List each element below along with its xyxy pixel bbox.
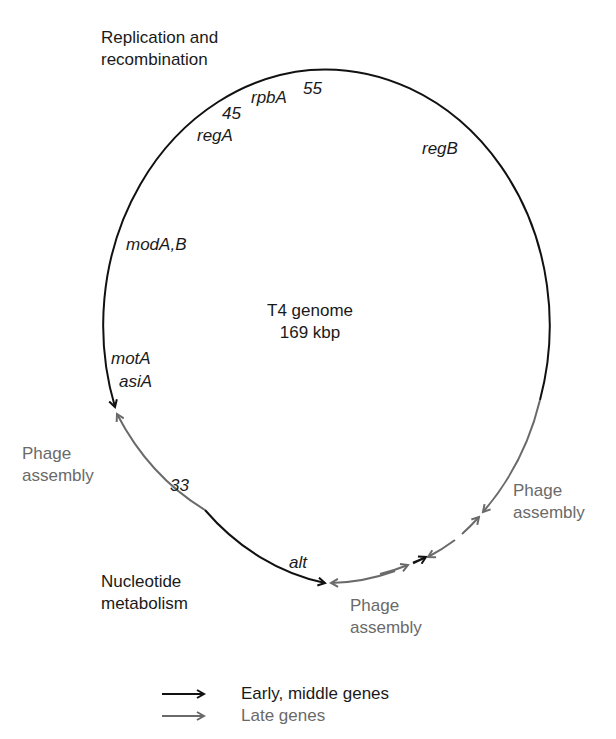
legend-late-label: Late genes xyxy=(241,705,325,727)
region-phage-left-line2: assembly xyxy=(22,465,94,487)
region-phage-left-line1: Phage xyxy=(22,443,94,465)
genome-title: T4 genome 169 kbp xyxy=(265,300,355,344)
genome-map xyxy=(0,0,616,739)
early-arrow-small xyxy=(413,557,426,563)
late-arc-bottom-fwd xyxy=(380,565,408,574)
region-phage-right: Phage assembly xyxy=(513,480,585,524)
region-nucleotide-line2: metabolism xyxy=(101,593,188,615)
late-arc-mid-back xyxy=(428,540,455,557)
region-nucleotide-line1: Nucleotide xyxy=(101,571,188,593)
gene-modAB: modA,B xyxy=(126,234,186,256)
region-phage-right-line2: assembly xyxy=(513,502,585,524)
region-replication-line1: Replication and xyxy=(101,27,218,49)
gene-motA: motA xyxy=(111,348,151,370)
late-arc-mid-fwd xyxy=(462,517,479,534)
gene-alt: alt xyxy=(289,552,307,574)
region-replication-line2: recombination xyxy=(101,49,218,71)
genome-size: 169 kbp xyxy=(265,322,355,344)
gene-33: 33 xyxy=(170,475,189,497)
early-arc-top-right xyxy=(310,69,550,400)
region-phage-left: Phage assembly xyxy=(22,443,94,487)
region-nucleotide: Nucleotide metabolism xyxy=(101,571,188,615)
late-arc-left xyxy=(117,414,205,510)
early-arc-alt xyxy=(205,510,325,583)
gene-55: 55 xyxy=(303,78,322,100)
genome-title-line1: T4 genome xyxy=(265,300,355,322)
gene-asiA: asiA xyxy=(119,371,152,393)
gene-rpbA: rpbA xyxy=(251,87,287,109)
gene-regB: regB xyxy=(422,138,458,160)
region-phage-right-line1: Phage xyxy=(513,480,585,502)
region-phage-bottom-line1: Phage xyxy=(350,595,422,617)
region-replication: Replication and recombination xyxy=(101,27,218,71)
gene-regA: regA xyxy=(197,125,233,147)
legend-early-label: Early, middle genes xyxy=(241,683,389,705)
region-phage-bottom-line2: assembly xyxy=(350,617,422,639)
gene-45: 45 xyxy=(222,103,241,125)
region-phage-bottom: Phage assembly xyxy=(350,595,422,639)
